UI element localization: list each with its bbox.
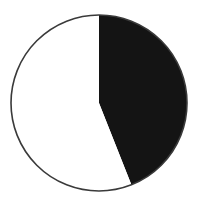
pie-chart [0,0,204,204]
pie-slices [11,15,187,191]
